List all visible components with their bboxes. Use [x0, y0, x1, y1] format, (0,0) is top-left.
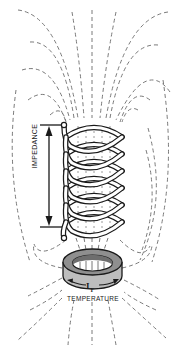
temperature-label: TEMPERATURE	[62, 295, 124, 302]
impedance-label: IMPEDANCE	[31, 116, 38, 176]
helical-coil	[61, 122, 122, 240]
coil-diagram: IMPEDANCE IT TEMPERATURE	[0, 0, 179, 350]
current-subscript: T	[90, 287, 94, 293]
impedance-arrow	[40, 125, 62, 227]
current-label: IT	[86, 281, 94, 293]
